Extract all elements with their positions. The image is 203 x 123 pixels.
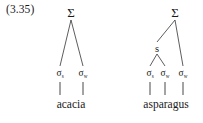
node-root-sigma: Σ [171, 6, 179, 19]
metrical-tree-figure: (3.35) Σ σs σw acacia [0, 0, 203, 123]
node-sigma-strong: σs [56, 69, 63, 79]
node-s: s [155, 44, 159, 55]
sigma-subscript: w [84, 73, 88, 79]
node-sigma-strong: σs [146, 69, 153, 79]
sigma-subscript: w [166, 73, 170, 79]
sigma-subscript: s [152, 73, 154, 79]
word-label-acacia: acacia [57, 99, 86, 111]
sigma-subscript: s [62, 73, 64, 79]
node-sigma-weak-outer: σw [179, 69, 188, 79]
tree-asparagus: Σ s σs σw σw asparagus [120, 0, 203, 123]
node-sigma-weak: σw [79, 69, 88, 79]
word-label-asparagus: asparagus [143, 99, 188, 111]
sigma-subscript: w [184, 73, 188, 79]
node-root-sigma: Σ [67, 6, 75, 19]
tree-acacia: Σ σs σw acacia [30, 0, 110, 123]
node-sigma-weak-inner: σw [161, 69, 170, 79]
